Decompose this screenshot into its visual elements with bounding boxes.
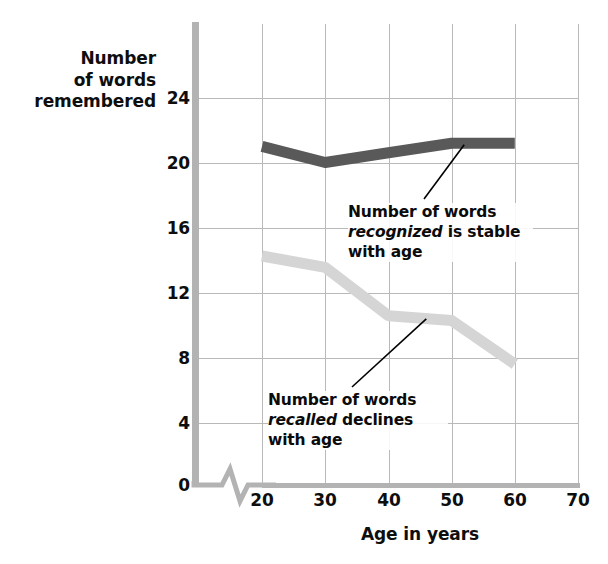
annotation-recalled-line-2: recalled declines <box>268 411 448 431</box>
memory-line-chart: Number of words remembered 24 20 16 12 8… <box>0 0 608 564</box>
annotation-recognized: Number of words recognized is stable wit… <box>348 203 533 262</box>
gridline-x-70 <box>578 24 579 485</box>
x-tick-label-40: 40 <box>366 490 412 510</box>
y-tick-label-16: 16 <box>146 218 190 238</box>
annotation-recalled-line-1: Number of words <box>268 391 448 411</box>
y-axis-title: Number of words remembered <box>8 48 156 113</box>
y-axis-title-line-3: remembered <box>8 91 156 113</box>
annotation-recognized-line-2-rest: is stable <box>443 223 521 241</box>
y-tick-label-24: 24 <box>146 88 190 108</box>
y-tick-label-8: 8 <box>146 348 190 368</box>
annotation-recalled-emphasis: recalled <box>268 411 337 429</box>
annotation-recognized-emphasis: recognized <box>348 223 443 241</box>
annotation-recognized-line-1: Number of words <box>348 203 533 223</box>
annotation-recalled-line-3: with age <box>268 431 448 451</box>
x-axis-title: Age in years <box>262 524 578 544</box>
y-axis-title-line-1: Number <box>8 48 156 70</box>
annotation-recognized-line-2: recognized is stable <box>348 223 533 243</box>
y-tick-label-4: 4 <box>146 413 190 433</box>
annotation-recognized-line-3: with age <box>348 243 533 263</box>
y-tick-label-20: 20 <box>146 153 190 173</box>
gridline-x-20 <box>262 24 263 485</box>
x-axis-spine <box>262 483 580 488</box>
y-axis-spine <box>192 22 199 487</box>
x-tick-label-30: 30 <box>302 490 348 510</box>
y-tick-label-12: 12 <box>146 283 190 303</box>
x-tick-label-20: 20 <box>239 490 285 510</box>
x-tick-label-60: 60 <box>492 490 538 510</box>
annotation-recalled: Number of words recalled declines with a… <box>268 391 448 450</box>
x-tick-label-70: 70 <box>555 490 601 510</box>
y-axis-title-line-2: of words <box>8 70 156 92</box>
y-tick-label-0: 0 <box>146 475 190 495</box>
annotation-recalled-line-2-rest: declines <box>337 411 413 429</box>
x-tick-label-50: 50 <box>429 490 475 510</box>
